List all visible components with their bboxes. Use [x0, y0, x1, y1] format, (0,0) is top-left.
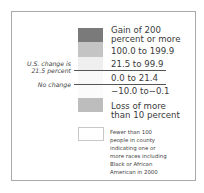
- swatch-no-data: [78, 127, 104, 141]
- us-change-note-line1: U.S. change is: [27, 60, 71, 67]
- label-loss-line2: than 10 percent: [111, 110, 180, 120]
- no-change-note: No change: [38, 81, 71, 88]
- no-data-line: indicating one or: [110, 144, 167, 152]
- us-change-note-line2: 21.5 percent: [31, 67, 71, 74]
- swatch-gain-200-plus: [78, 28, 103, 42]
- no-data-line: American in 2000: [110, 168, 167, 176]
- no-change-line: [74, 84, 166, 85]
- no-data-line: more races including: [110, 152, 167, 160]
- swatch-0-to-21-4: [78, 70, 103, 84]
- no-data-label: Fewer than 100 people in county indicati…: [110, 128, 167, 176]
- label-21-5-to-99-9: 21.5 to 99.9: [111, 59, 163, 69]
- swatch-100-to-199: [78, 42, 103, 57]
- no-data-line: Fewer than 100: [110, 128, 167, 136]
- us-change-line: [74, 70, 166, 71]
- label-minus-10-to-0: −10.0 to−0.1: [111, 86, 170, 96]
- swatch-minus-10-to-0: [78, 84, 103, 98]
- label-100-to-199: 100.0 to 199.9: [111, 46, 174, 56]
- swatch-21-5-to-99-9: [78, 57, 103, 70]
- no-data-line: Black or African: [110, 160, 167, 168]
- label-gain-200-line2: percent or more: [111, 34, 180, 44]
- swatch-loss-over-10: [78, 98, 103, 112]
- no-data-line: people in county: [110, 136, 167, 144]
- label-0-to-21-4: 0.0 to 21.4: [111, 73, 158, 83]
